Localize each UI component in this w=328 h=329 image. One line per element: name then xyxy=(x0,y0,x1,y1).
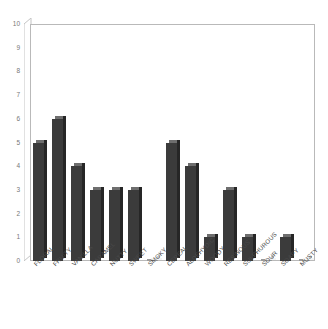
bar-chart: 012345678910 FLORALFRUITYVANILLACARAMELN… xyxy=(0,0,328,329)
y-axis-tick-label: 9 xyxy=(16,44,20,51)
y-axis-tick-label: 3 xyxy=(16,187,20,194)
y-axis-tick-label: 8 xyxy=(16,68,20,75)
y-axis-tick-label: 4 xyxy=(16,163,20,170)
y-axis-tick-label: 6 xyxy=(16,116,20,123)
bar[interactable] xyxy=(52,119,63,261)
y-axis-tick-label: 10 xyxy=(13,21,20,28)
y-axis: 012345678910 xyxy=(0,0,24,329)
bars-layer xyxy=(30,24,315,261)
y-axis-tick-label: 1 xyxy=(16,234,20,241)
y-axis-tick-label: 2 xyxy=(16,210,20,217)
bar[interactable] xyxy=(166,143,177,262)
y-axis-tick-label: 0 xyxy=(16,258,20,265)
x-axis: FLORALFRUITYVANILLACARAMELNUTTYSWEETSMOK… xyxy=(30,263,315,329)
bar[interactable] xyxy=(33,143,44,262)
bar[interactable] xyxy=(71,166,82,261)
y-axis-tick-label: 5 xyxy=(16,139,20,146)
y-axis-tick-label: 7 xyxy=(16,92,20,99)
